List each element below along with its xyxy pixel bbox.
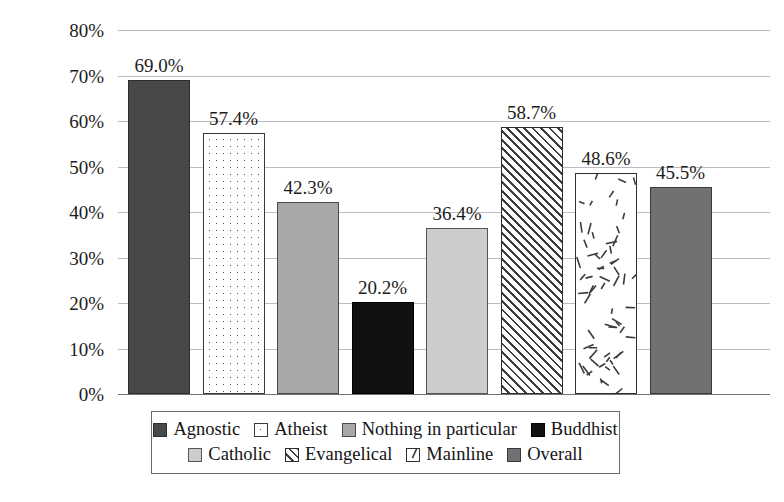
legend-swatch-icon-atheist bbox=[254, 423, 268, 437]
y-tick-label-40: 40% bbox=[0, 203, 104, 222]
y-tick-label-30: 30% bbox=[0, 249, 104, 268]
y-tick-label-20: 20% bbox=[0, 294, 104, 313]
bar-mainline bbox=[575, 173, 637, 394]
legend-swatch-icon-overall bbox=[507, 448, 521, 462]
chart-legend: AgnosticAtheistNothing in particularBudd… bbox=[151, 411, 620, 474]
legend-label-agnostic: Agnostic bbox=[173, 420, 240, 439]
legend-swatch-icon-mainline bbox=[406, 448, 420, 462]
legend-row-1: AgnosticAtheistNothing in particularBudd… bbox=[156, 417, 615, 442]
legend-row-2: CatholicEvangelicalMainlineOverall bbox=[156, 442, 615, 467]
legend-item-catholic[interactable]: Catholic bbox=[188, 445, 271, 464]
legend-swatch-icon-evangelical bbox=[285, 448, 299, 462]
legend-item-agnostic[interactable]: Agnostic bbox=[153, 420, 240, 439]
legend-item-nothing-in-particular[interactable]: Nothing in particular bbox=[342, 420, 517, 439]
legend-item-overall[interactable]: Overall bbox=[507, 445, 582, 464]
legend-swatch-icon-buddhist bbox=[531, 423, 545, 437]
bar-overall bbox=[650, 187, 712, 394]
legend-label-overall: Overall bbox=[527, 445, 582, 464]
bar-nothing-in-particular bbox=[277, 202, 339, 394]
legend-label-buddhist: Buddhist bbox=[551, 420, 618, 439]
bar-buddhist bbox=[352, 302, 414, 394]
bar-label-buddhist: 20.2% bbox=[342, 278, 424, 297]
y-tick-label-70: 70% bbox=[0, 67, 104, 86]
bar-label-nothing-in-particular: 42.3% bbox=[267, 178, 349, 197]
legend-item-mainline[interactable]: Mainline bbox=[406, 445, 493, 464]
legend-swatch-icon-agnostic bbox=[153, 423, 167, 437]
bar-catholic bbox=[426, 228, 488, 394]
gridline-70 bbox=[118, 76, 770, 77]
y-tick-label-10: 10% bbox=[0, 340, 104, 359]
legend-item-atheist[interactable]: Atheist bbox=[254, 420, 327, 439]
y-tick-label-0: 0% bbox=[0, 385, 104, 404]
legend-label-atheist: Atheist bbox=[274, 420, 327, 439]
chart-page: 80%70%60%50%40%30%20%10%0% 69.0%57.4%42.… bbox=[0, 0, 784, 502]
bar-label-agnostic: 69.0% bbox=[118, 56, 200, 75]
legend-label-mainline: Mainline bbox=[426, 445, 493, 464]
gridline-80 bbox=[118, 30, 770, 31]
legend-swatch-icon-catholic bbox=[188, 448, 202, 462]
cropped-title-artifact bbox=[200, 0, 600, 14]
y-tick-label-60: 60% bbox=[0, 112, 104, 131]
legend-item-buddhist[interactable]: Buddhist bbox=[531, 420, 618, 439]
bar-label-overall: 45.5% bbox=[640, 163, 722, 182]
bar-label-catholic: 36.4% bbox=[416, 204, 498, 223]
legend-label-evangelical: Evangelical bbox=[305, 445, 392, 464]
bar-label-atheist: 57.4% bbox=[193, 109, 275, 128]
bar-agnostic bbox=[128, 80, 190, 394]
legend-label-nothing-in-particular: Nothing in particular bbox=[362, 420, 517, 439]
bar-label-mainline: 48.6% bbox=[565, 149, 647, 168]
legend-label-catholic: Catholic bbox=[208, 445, 271, 464]
legend-item-evangelical[interactable]: Evangelical bbox=[285, 445, 392, 464]
bar-evangelical bbox=[501, 127, 563, 394]
y-tick-label-50: 50% bbox=[0, 158, 104, 177]
y-tick-label-80: 80% bbox=[0, 21, 104, 40]
gridline-0 bbox=[118, 394, 770, 395]
bar-atheist bbox=[203, 133, 265, 394]
legend-swatch-icon-nothing-in-particular bbox=[342, 423, 356, 437]
bar-label-evangelical: 58.7% bbox=[491, 103, 573, 122]
